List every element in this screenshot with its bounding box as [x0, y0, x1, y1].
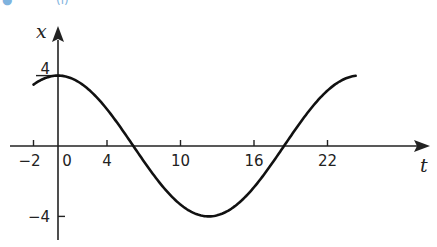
x-axis-arrow-icon: [52, 26, 64, 42]
x-tick-label: 4: [40, 60, 50, 78]
header-icon: ●: [2, 0, 12, 7]
t-tick-label: 0: [62, 152, 72, 170]
t-tick-label: 10: [171, 152, 190, 170]
t-tick-label: 22: [318, 152, 337, 170]
t-tick-label: 4: [102, 152, 112, 170]
axes: [10, 26, 430, 240]
x-tick-label: −4: [28, 208, 50, 226]
x-axis-label: x: [36, 20, 47, 42]
t-tick-label: −2: [18, 152, 40, 170]
t-axis-label: t: [420, 154, 428, 176]
header-label: (i): [56, 0, 69, 7]
t-tick-label: 16: [244, 152, 263, 170]
chart: ● (i) x t −2041016224−4: [0, 0, 437, 247]
